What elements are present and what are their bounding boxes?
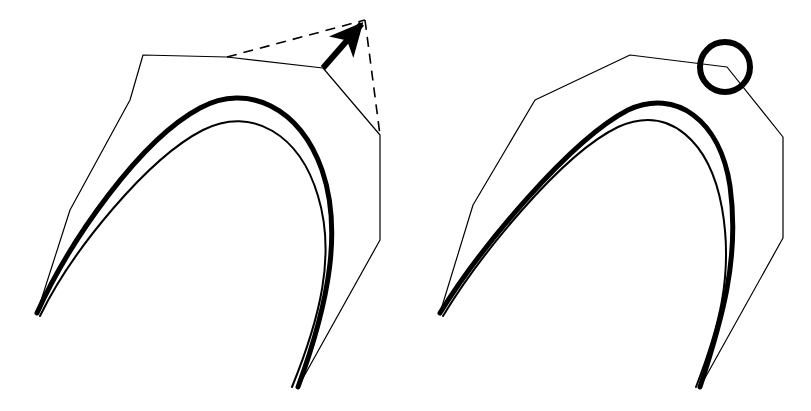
- left-dashed-tangent-upper: [227, 20, 365, 57]
- right-panel: [440, 42, 783, 387]
- figure-root: left right: [0, 0, 811, 411]
- left-panel: [37, 20, 380, 387]
- diagram-canvas: [0, 0, 811, 411]
- right-thick-curve: [440, 103, 733, 387]
- left-dashed-tangent-right: [365, 20, 380, 135]
- right-thin-curve: [443, 120, 726, 387]
- left-thin-curve: [40, 121, 326, 387]
